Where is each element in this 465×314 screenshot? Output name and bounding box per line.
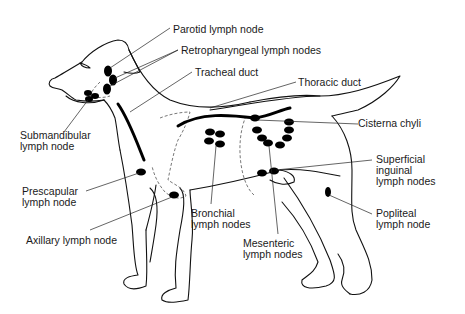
- thoracic-duct: [178, 108, 290, 126]
- label-submandibular: Submandibular lymph node: [20, 130, 91, 152]
- label-superficial-inguinal: Superficial inguinal lymph nodes: [376, 154, 436, 187]
- label-prescapular: Prescapular lymph node: [22, 186, 78, 208]
- submandibular-node: [84, 90, 92, 96]
- mesenteric-node: [275, 142, 285, 149]
- label-line: lymph node: [376, 219, 430, 230]
- mesenteric-node: [263, 140, 273, 147]
- cisterna-chyli-node: [250, 115, 260, 122]
- label-popliteal: Popliteal lymph node: [376, 208, 430, 230]
- retropharyngeal-node: [109, 75, 117, 86]
- submandibular-node: [85, 96, 93, 102]
- bronchial-node: [215, 131, 225, 138]
- label-line: lymph nodes: [376, 176, 436, 187]
- label-mesenteric: Mesenteric lymph nodes: [243, 238, 303, 260]
- label-line: lymph node: [22, 197, 78, 208]
- label-retropharyngeal: Retropharyngeal lymph nodes: [181, 45, 321, 56]
- label-axillary: Axillary lymph node: [26, 235, 117, 246]
- tracheal-duct: [118, 104, 144, 160]
- label-bronchial: Bronchial lymph nodes: [191, 208, 251, 230]
- superficial-inguinal-node: [257, 170, 267, 177]
- label-tracheal-duct: Tracheal duct: [195, 67, 258, 78]
- label-line: lymph nodes: [243, 249, 303, 260]
- label-line: lymph node: [20, 141, 91, 152]
- mesenteric-node: [282, 135, 292, 142]
- superficial-inguinal-node: [269, 168, 279, 175]
- bronchial-node: [204, 138, 214, 145]
- retropharyngeal-node: [103, 84, 111, 95]
- label-line: lymph nodes: [191, 219, 251, 230]
- mesenteric-node: [284, 127, 294, 134]
- label-cisterna-chyli: Cisterna chyli: [358, 118, 421, 129]
- bronchial-node: [205, 129, 215, 136]
- label-thoracic-duct: Thoracic duct: [298, 77, 361, 88]
- label-parotid: Parotid lymph node: [173, 24, 263, 35]
- mesenteric-node: [252, 127, 262, 134]
- bronchial-node: [215, 141, 225, 148]
- mesenteric-node: [284, 119, 294, 126]
- organ-outlines: [90, 82, 254, 198]
- prescapular-node: [136, 169, 146, 176]
